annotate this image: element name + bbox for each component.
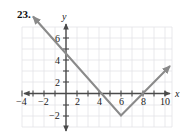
x-axis-label: x	[175, 88, 179, 99]
x-tick-label-minus2: −2	[38, 96, 49, 107]
y-tick-label-2: 2	[55, 77, 60, 88]
x-tick-label-8: 8	[141, 96, 146, 107]
figure-container: 23.	[0, 0, 188, 138]
coordinate-plane	[0, 0, 188, 138]
y-tick-label-4: 4	[55, 55, 60, 66]
axis-lines	[24, 24, 170, 131]
x-tick-label-2: 2	[75, 96, 80, 107]
grid-lines	[22, 27, 172, 127]
x-tick-label-6: 6	[119, 96, 124, 107]
y-tick-label-minus2: −2	[49, 110, 60, 121]
y-axis-label: y	[62, 11, 66, 22]
x-tick-label-4: 4	[97, 96, 102, 107]
x-tick-label-minus4: −4	[16, 96, 27, 107]
x-tick-label-10: 10	[160, 96, 170, 107]
y-tick-label-6: 6	[55, 33, 60, 44]
